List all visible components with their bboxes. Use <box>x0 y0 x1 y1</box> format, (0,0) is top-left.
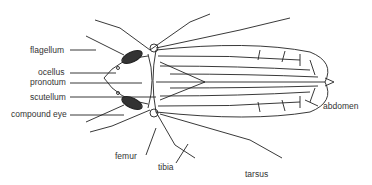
label-abdomen: abdomen <box>323 102 358 111</box>
label-femur: femur <box>115 152 137 161</box>
label-tarsus: tarsus <box>245 170 268 179</box>
label-tibia: tibia <box>158 163 174 172</box>
label-compound-eye: compound eye <box>11 110 67 119</box>
label-pronotum: pronotum <box>30 78 66 87</box>
label-scutellum: scutellum <box>30 93 66 102</box>
insect-anatomy-diagram: flagellum ocellus pronotum scutellum com… <box>0 0 372 185</box>
label-flagellum: flagellum <box>30 46 64 55</box>
label-ocellus: ocellus <box>38 68 64 77</box>
